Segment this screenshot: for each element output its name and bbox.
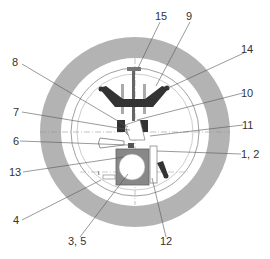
- lower-block-left: [117, 120, 125, 132]
- label-3-5: 3, 5: [68, 235, 86, 247]
- label-4: 4: [13, 214, 19, 226]
- label-15: 15: [155, 10, 167, 22]
- label-9: 9: [186, 10, 192, 22]
- screw-shaft: [132, 71, 135, 121]
- label-13: 13: [9, 166, 21, 178]
- small-connector: [128, 143, 134, 148]
- small-sensor: [103, 175, 115, 179]
- screw-head: [127, 67, 141, 71]
- yoke-right-pin: [165, 86, 170, 91]
- label-6: 6: [13, 135, 19, 147]
- label-10: 10: [241, 87, 253, 99]
- label-1-2: 1, 2: [241, 148, 259, 160]
- side-plate: [150, 146, 157, 183]
- label-12: 12: [160, 235, 172, 247]
- label-14: 14: [241, 43, 253, 55]
- yoke-left-pin: [99, 87, 104, 92]
- label-7: 7: [13, 106, 19, 118]
- label-11: 11: [242, 119, 253, 131]
- diagram-canvas: 15 9 14 8 10 7 11 6 1, 2 13 4 3, 5 12: [0, 0, 270, 259]
- lens-circle: [119, 154, 145, 180]
- label-8: 8: [12, 56, 18, 68]
- bracket-pin: [164, 174, 169, 179]
